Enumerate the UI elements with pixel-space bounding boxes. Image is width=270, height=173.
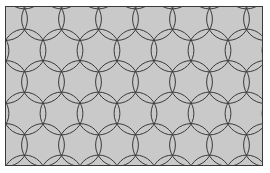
figure-root <box>0 0 270 173</box>
pattern-circle <box>262 29 263 72</box>
pattern-circle <box>262 7 263 9</box>
pattern-circle <box>262 155 263 166</box>
pattern-circle <box>262 92 263 135</box>
pattern-frame <box>5 6 263 166</box>
flower-of-life-pattern <box>6 7 263 166</box>
